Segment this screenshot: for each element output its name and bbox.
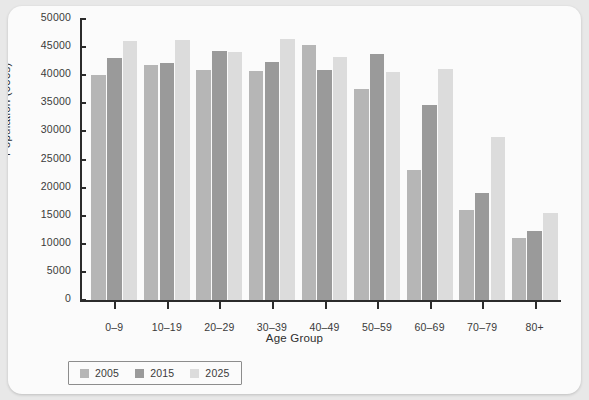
bar (475, 193, 490, 300)
bar (107, 58, 122, 300)
bar (228, 52, 243, 300)
y-axis-line (80, 19, 82, 302)
legend-label: 2005 (95, 367, 119, 379)
y-tick-mark (80, 18, 86, 20)
y-axis-title: Population (000s) (8, 62, 12, 156)
bar (386, 72, 401, 300)
bar (280, 39, 295, 300)
x-tick-mark (325, 302, 327, 309)
legend-label: 2015 (150, 367, 174, 379)
bar (249, 71, 264, 300)
x-tick-mark (114, 302, 116, 309)
y-tick-label: 45000 (41, 39, 71, 51)
y-tick-label: 50000 (41, 11, 71, 23)
y-tick-mark (80, 102, 86, 104)
bar (175, 40, 190, 300)
bar (144, 65, 159, 300)
y-tick-label: 15000 (41, 208, 71, 220)
legend-swatch-icon (80, 369, 89, 378)
y-tick-mark (80, 187, 86, 189)
x-tick-mark (272, 302, 274, 309)
x-axis-title: Age Group (8, 332, 581, 344)
legend-item[interactable]: 2025 (190, 367, 229, 379)
bar (543, 213, 558, 300)
bar (91, 75, 106, 300)
x-axis-line (80, 300, 561, 302)
plot-area: 0500010000150002000025000300003500040000… (80, 19, 561, 302)
bar (196, 70, 211, 300)
x-tick-mark (219, 302, 221, 309)
bar (317, 70, 332, 300)
bar (160, 63, 175, 300)
x-tick-mark (167, 302, 169, 309)
y-tick-label: 25000 (41, 152, 71, 164)
y-tick-label: 35000 (41, 95, 71, 107)
legend-item[interactable]: 2005 (80, 367, 119, 379)
bar (212, 51, 227, 300)
legend-item[interactable]: 2015 (135, 367, 174, 379)
x-tick-mark (377, 302, 379, 309)
y-tick-label: 20000 (41, 180, 71, 192)
x-tick-mark (535, 302, 537, 309)
y-tick-mark (80, 243, 86, 245)
y-tick-label: 40000 (41, 67, 71, 79)
chart-legend: 200520152025 (68, 361, 242, 385)
bar (459, 210, 474, 300)
bar (422, 105, 437, 300)
y-tick-mark (80, 271, 86, 273)
y-tick-mark (80, 46, 86, 48)
y-tick-label: 10000 (41, 236, 71, 248)
legend-swatch-icon (135, 369, 144, 378)
bar (265, 62, 280, 300)
y-tick-label: 30000 (41, 123, 71, 135)
y-tick-label: 0 (65, 292, 71, 304)
bar (333, 57, 348, 300)
x-tick-mark (482, 302, 484, 309)
y-tick-label: 5000 (47, 264, 71, 276)
bar (370, 54, 385, 300)
legend-label: 2025 (205, 367, 229, 379)
bar (527, 231, 542, 300)
y-tick-mark (80, 159, 86, 161)
y-tick-mark (80, 215, 86, 217)
y-tick-mark (80, 74, 86, 76)
bar (407, 170, 422, 300)
bar (512, 238, 527, 300)
bar (438, 69, 453, 300)
y-tick-mark (80, 130, 86, 132)
legend-swatch-icon (190, 369, 199, 378)
x-tick-mark (430, 302, 432, 309)
chart-figure: Population (000s) 0500010000150002000025… (8, 6, 581, 394)
bar (302, 45, 317, 300)
bar (491, 137, 506, 300)
bar (123, 41, 138, 300)
bar (354, 89, 369, 300)
y-tick-mark (80, 299, 86, 301)
